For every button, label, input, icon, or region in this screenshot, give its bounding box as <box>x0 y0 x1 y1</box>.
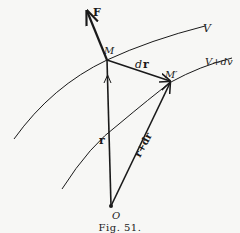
label-surface-v-dv: V+dv <box>205 56 233 67</box>
label-point-m-prime: M′ <box>164 69 178 80</box>
label-position-plus: r+dr <box>132 130 154 159</box>
label-displacement-d: d <box>135 58 142 71</box>
vector-diagram: F M M′ d r r r+dr O V V+dv Fig. 51. <box>0 0 240 233</box>
label-force: F <box>93 6 101 19</box>
surface-v-dv-curve <box>62 58 232 189</box>
label-origin: O <box>112 210 120 221</box>
label-point-m: M <box>103 45 115 56</box>
label-surface-v: V <box>203 22 212 35</box>
figure-caption: Fig. 51. <box>99 222 142 233</box>
label-displacement-r: r <box>143 58 149 71</box>
origin-point <box>109 204 113 208</box>
label-position-vector: r <box>99 134 105 147</box>
